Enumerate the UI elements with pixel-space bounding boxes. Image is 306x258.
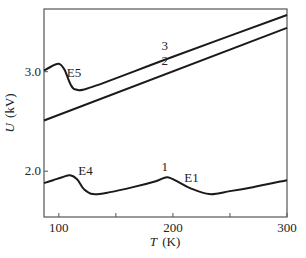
x-tick-label: 100	[49, 220, 69, 235]
y-tick-label: 3.0	[25, 64, 41, 79]
chart: 100200300 2.03.0 E5E4E1123 T (K) U (kV)	[0, 0, 306, 258]
annotation-e4: E4	[78, 163, 93, 178]
y-tick-label: 2.0	[25, 163, 41, 178]
annotation-e1: E1	[184, 170, 198, 185]
annotation-2: 2	[162, 53, 169, 68]
x-tick-label: 300	[277, 220, 297, 235]
x-tick-label: 200	[163, 220, 183, 235]
curve-annotations: E5E4E1123	[67, 38, 199, 185]
x-axis-title: T (K)	[150, 234, 181, 249]
x-axis-ticks: 100200300	[49, 213, 297, 235]
annotation-1: 1	[162, 159, 169, 174]
annotation-3: 3	[162, 38, 169, 53]
annotation-e5: E5	[67, 65, 81, 80]
y-axis-title: U (kV)	[2, 93, 17, 132]
